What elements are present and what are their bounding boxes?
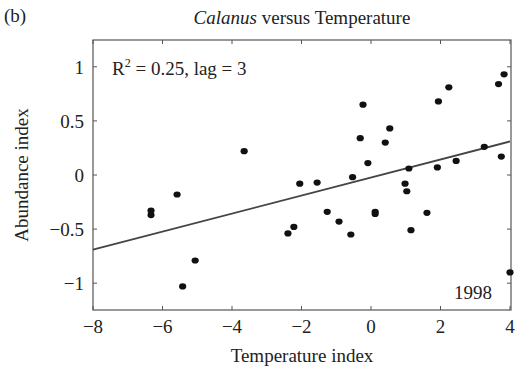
data-point bbox=[405, 165, 412, 171]
plot-frame bbox=[93, 40, 511, 310]
data-point bbox=[372, 211, 379, 217]
y-tick-label: 1 bbox=[75, 57, 85, 78]
data-point bbox=[179, 283, 186, 289]
data-point bbox=[495, 81, 502, 87]
data-point bbox=[403, 188, 410, 194]
data-point bbox=[364, 160, 371, 166]
data-point bbox=[481, 144, 488, 150]
x-tick-label: −8 bbox=[83, 316, 103, 337]
data-point bbox=[241, 148, 248, 154]
data-point bbox=[284, 230, 291, 236]
x-axis-label: Temperature index bbox=[231, 345, 374, 366]
data-point bbox=[347, 231, 354, 237]
y-tick-label: −0.5 bbox=[50, 219, 84, 240]
y-tick-label: 0 bbox=[75, 165, 85, 186]
data-point bbox=[506, 269, 513, 275]
y-axis-label: Abundance index bbox=[11, 108, 32, 242]
data-point bbox=[498, 154, 505, 160]
data-point bbox=[349, 174, 356, 180]
data-point bbox=[423, 210, 430, 216]
y-tick-label: 0.5 bbox=[60, 111, 84, 132]
data-point bbox=[435, 98, 442, 104]
r-squared-annotation: R2 = 0.25, lag = 3 bbox=[112, 56, 247, 79]
regression-line bbox=[93, 141, 510, 249]
data-point bbox=[401, 181, 408, 187]
x-tick-label: 4 bbox=[505, 316, 515, 337]
x-axis: −8−6−4−2024 bbox=[83, 40, 515, 337]
title-rest: versus Temperature bbox=[257, 7, 410, 28]
x-tick-label: 2 bbox=[436, 316, 446, 337]
x-tick-label: −6 bbox=[152, 316, 172, 337]
y-tick-label: −1 bbox=[64, 273, 84, 294]
data-point bbox=[500, 71, 507, 77]
data-point bbox=[382, 139, 389, 145]
data-point bbox=[453, 158, 460, 164]
y-axis: 10.50−0.5−1 bbox=[50, 57, 511, 294]
data-point bbox=[192, 257, 199, 263]
x-tick-label: −4 bbox=[222, 316, 243, 337]
panel-label: (b) bbox=[4, 5, 26, 27]
data-point bbox=[296, 181, 303, 187]
data-point bbox=[386, 125, 393, 131]
data-point bbox=[359, 102, 366, 108]
data-point bbox=[434, 164, 441, 170]
title-italic: Calanus bbox=[194, 7, 257, 28]
chart-title: Calanus versus Temperature bbox=[194, 7, 411, 28]
data-point bbox=[407, 227, 414, 233]
x-tick-label: 0 bbox=[366, 316, 376, 337]
data-point bbox=[147, 212, 154, 218]
year-annotation: 1998 bbox=[454, 282, 492, 303]
data-point bbox=[357, 135, 364, 141]
data-point bbox=[445, 84, 452, 90]
data-point bbox=[335, 218, 342, 224]
data-point bbox=[290, 224, 297, 230]
scatter-chart: (b) Calanus versus Temperature −8−6−4−20… bbox=[0, 0, 528, 382]
data-point bbox=[314, 179, 321, 185]
data-point bbox=[324, 209, 331, 215]
data-point bbox=[173, 191, 180, 197]
data-points bbox=[147, 71, 513, 289]
x-tick-label: −2 bbox=[291, 316, 311, 337]
